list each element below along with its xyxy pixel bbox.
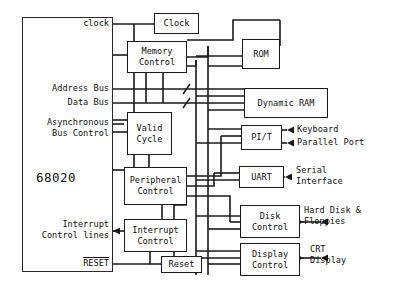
block-interrupt-control-label: Interrupt Control: [132, 225, 179, 247]
block-clock[interactable]: Clock: [154, 13, 199, 34]
device-label-crt-display: CRT Display: [310, 244, 393, 266]
block-disk-control-label: Disk Control: [252, 211, 288, 233]
pin-label-address-bus: Address Bus: [18, 83, 109, 94]
block-rom-label: ROM: [253, 49, 269, 60]
block-display-control-label: Display Control: [252, 249, 288, 271]
block-uart-label: UART: [251, 172, 272, 183]
block-reset-label: Reset: [169, 259, 195, 270]
block-memory-control-label: Memory Control: [139, 46, 175, 68]
block-rom[interactable]: ROM: [242, 39, 280, 69]
device-label-serial-interface: Serial Interface: [296, 165, 391, 187]
block-valid-cycle[interactable]: Valid Cycle: [127, 112, 172, 155]
device-label-hard-disk-floppies: Hard Disk & Floppies: [304, 205, 393, 227]
block-pit-label: PI/T: [251, 132, 272, 143]
pin-label-interrupt-control-lines: Interrupt Control lines: [8, 219, 109, 241]
diagram-canvas: 68020 clock Address Bus Data Bus Asynchr…: [0, 0, 393, 289]
block-dynamic-ram[interactable]: Dynamic RAM: [244, 88, 328, 118]
bus-slash-marks: [183, 84, 190, 108]
pin-label-reset: RESET: [40, 258, 109, 269]
block-memory-control[interactable]: Memory Control: [127, 41, 187, 73]
block-peripheral-control-label: Peripheral Control: [130, 175, 182, 197]
block-pit[interactable]: PI/T: [241, 125, 282, 150]
device-label-parallel-port: Parallel Port: [297, 137, 392, 148]
block-valid-cycle-label: Valid Cycle: [137, 123, 163, 145]
pin-label-data-bus: Data Bus: [18, 97, 109, 108]
block-interrupt-control[interactable]: Interrupt Control: [124, 219, 187, 252]
block-uart[interactable]: UART: [239, 166, 284, 188]
pin-label-clock: clock: [33, 18, 109, 29]
block-peripheral-control[interactable]: Peripheral Control: [124, 167, 187, 205]
pin-label-async-bus-control: Asynchronous Bus Control: [8, 117, 109, 139]
cpu-label: 68020: [36, 170, 76, 185]
block-display-control[interactable]: Display Control: [240, 243, 300, 276]
device-label-keyboard: Keyboard: [297, 124, 392, 135]
block-reset[interactable]: Reset: [161, 256, 202, 273]
block-disk-control[interactable]: Disk Control: [240, 205, 300, 238]
block-clock-label: Clock: [164, 18, 190, 29]
block-dynamic-ram-label: Dynamic RAM: [258, 98, 315, 109]
